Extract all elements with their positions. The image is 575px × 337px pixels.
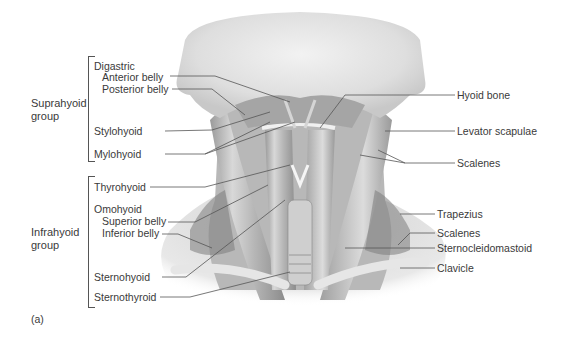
label-clavicle: Clavicle xyxy=(437,262,474,274)
label-scalenes-lower: Scalenes xyxy=(437,227,480,239)
infrahyoid-group-label: Infrahyoid group xyxy=(31,226,79,252)
label-sternothyroid: Sternothyroid xyxy=(94,291,156,303)
label-inferior-belly: Inferior belly xyxy=(102,227,159,239)
label-mylohyoid: Mylohyoid xyxy=(94,148,141,160)
label-posterior-belly: Posterior belly xyxy=(102,83,169,95)
label-superior-belly: Superior belly xyxy=(102,215,166,227)
label-sternohyoid: Sternohyoid xyxy=(94,271,150,283)
label-hyoid-bone: Hyoid bone xyxy=(457,89,510,101)
label-omohyoid: Omohyoid xyxy=(94,203,142,215)
label-levator-scapulae: Levator scapulae xyxy=(457,125,537,137)
panel-label: (a) xyxy=(31,313,44,325)
label-scalenes-upper: Scalenes xyxy=(457,157,500,169)
label-thyrohyoid: Thyrohyoid xyxy=(94,181,146,193)
infrahyoid-bracket xyxy=(88,176,95,308)
suprahyoid-group-label: Suprahyoid group xyxy=(31,97,87,123)
label-sternocleidomastoid: Sternocleidomastoid xyxy=(437,242,532,254)
label-trapezius: Trapezius xyxy=(437,208,483,220)
label-stylohyoid: Stylohyoid xyxy=(94,125,142,137)
label-anterior-belly: Anterior belly xyxy=(102,71,163,83)
